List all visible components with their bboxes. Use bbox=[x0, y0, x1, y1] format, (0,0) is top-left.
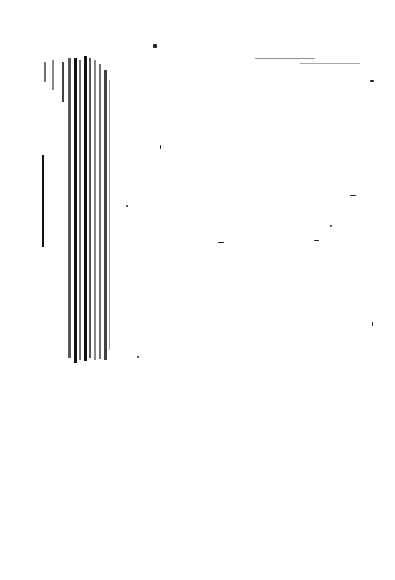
left-margin-rule bbox=[42, 155, 44, 247]
scanned-page bbox=[0, 0, 395, 580]
